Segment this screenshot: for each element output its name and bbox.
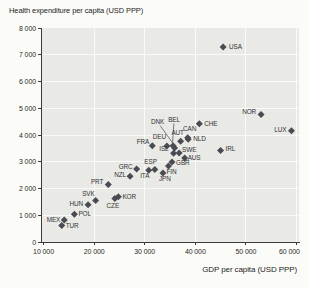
y-tick-label: 8 000 <box>19 25 36 32</box>
point-label-TUR: TUR <box>66 222 79 229</box>
point-label-SVK: SVK <box>82 190 95 197</box>
y-tick-label: 6 000 <box>19 78 36 85</box>
scatter-chart: 01 0002 0003 0004 0005 0006 0007 0008 00… <box>0 0 309 288</box>
point-label-NLD: NLD <box>193 135 206 142</box>
point-label-JPN: JPN <box>159 175 171 182</box>
point-label-GRC: GRC <box>119 163 133 170</box>
x-axis-title: GDP per capita (USD PPP) <box>202 265 297 274</box>
y-tick-label: 1 000 <box>19 212 36 219</box>
x-tick-label: 60 000 <box>279 248 300 255</box>
point-label-CHE: CHE <box>204 120 217 127</box>
y-tick-label: 7 000 <box>19 51 36 58</box>
x-tick-label: 50 000 <box>235 248 256 255</box>
point-label-CZE: CZE <box>107 202 119 209</box>
point-label-ESP: ESP <box>144 158 157 165</box>
point-label-SWE: SWE <box>182 146 196 153</box>
point-label-ISL: ISL <box>159 145 169 152</box>
point-label-NOR: NOR <box>242 108 256 115</box>
point-label-LUX: LUX <box>274 126 287 133</box>
x-tick-label: 20 000 <box>84 248 105 255</box>
point-label-DNK: DNK <box>151 118 165 125</box>
point-label-USA: USA <box>229 43 243 50</box>
chart-title: Health expenditure per capita (USD PPP) <box>9 6 144 15</box>
point-label-CAN: CAN <box>183 125 197 132</box>
point-label-FRA: FRA <box>137 138 150 145</box>
y-tick-label: 4 000 <box>19 132 36 139</box>
health-expenditure-scatter-figure: 01 0002 0003 0004 0005 0006 0007 0008 00… <box>0 0 309 288</box>
point-label-POL: POL <box>78 210 91 217</box>
y-tick-label: 5 000 <box>19 105 36 112</box>
x-tick-label: 40 000 <box>185 248 206 255</box>
y-tick-label: 0 <box>32 239 36 246</box>
point-label-AUS: AUS <box>188 154 201 161</box>
y-tick-label: 3 000 <box>19 158 36 165</box>
point-label-HUN: HUN <box>70 200 84 207</box>
point-label-BEL: BEL <box>168 116 180 123</box>
point-label-AUT: AUT <box>171 129 184 136</box>
point-label-MEX: MEX <box>47 216 61 223</box>
point-label-NZL: NZL <box>114 171 126 178</box>
y-tick-label: 2 000 <box>19 185 36 192</box>
x-tick-label: 10 000 <box>33 248 54 255</box>
point-label-PRT: PRT <box>91 178 104 185</box>
x-tick-label: 30 000 <box>134 248 155 255</box>
plot-area: 01 0002 0003 0004 0005 0006 0007 0008 00… <box>19 25 300 256</box>
point-label-KOR: KOR <box>122 193 136 200</box>
point-label-IRL: IRL <box>226 145 236 152</box>
point-label-GBR: GBR <box>176 159 190 166</box>
point-label-ITA: ITA <box>140 172 150 179</box>
point-label-DEU: DEU <box>153 133 167 140</box>
